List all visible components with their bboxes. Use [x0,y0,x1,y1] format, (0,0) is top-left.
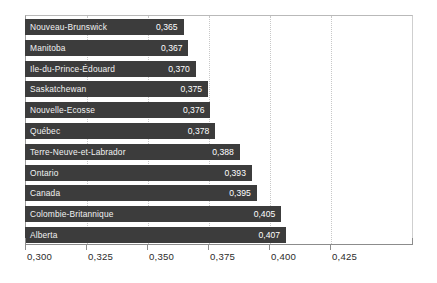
bar-category-label: Alberta [30,227,58,243]
bar-row: Nouvelle-Ecosse0,376 [25,102,210,118]
bar-row: Ontario0,393 [25,165,252,181]
bar-category-label: Ile-du-Prince-Édouard [30,61,115,77]
axis-tick [208,244,209,250]
bar-row: Alberta0,407 [25,227,286,243]
bar-row: Colombie-Britannique0,405 [25,206,281,222]
bar-value-label: 0,388 [212,144,234,160]
bar-category-label: Manitoba [30,40,66,56]
bar-row: Manitoba0,367 [25,40,188,56]
bar-value-label: 0,405 [254,206,276,222]
axis-tick-label: 0,325 [88,251,113,262]
axis-tick-label: 0,400 [271,251,296,262]
bar-row: Terre-Neuve-et-Labrador0,388 [25,144,240,160]
bar-value-label: 0,365 [156,19,178,35]
bar-value-label: 0,393 [224,165,246,181]
axis-tick-label: 0,375 [210,251,235,262]
x-axis-line [25,244,413,245]
bars-layer: Nouveau-Brunswick0,365Manitoba0,367Ile-d… [25,15,413,244]
bar-value-label: 0,375 [181,81,203,97]
axis-tick [330,244,331,250]
bar-value-label: 0,370 [168,61,190,77]
bar-row: Ile-du-Prince-Édouard0,370 [25,61,196,77]
bar-category-label: Saskatchewan [30,81,86,97]
axis-tick [86,244,87,250]
bar-value-label: 0,367 [161,40,183,56]
bar-row: Nouveau-Brunswick0,365 [25,19,184,35]
bar-row: Saskatchewan0,375 [25,81,208,97]
bar-value-label: 0,376 [183,102,205,118]
horizontal-bar-chart: Nouveau-Brunswick0,365Manitoba0,367Ile-d… [0,0,437,283]
bar-category-label: Nouveau-Brunswick [30,19,107,35]
bar-value-label: 0,407 [259,227,281,243]
axis-tick [269,244,270,250]
bar-category-label: Canada [30,185,60,201]
x-axis-right-cap [412,238,413,245]
bar-value-label: 0,378 [188,123,210,139]
bar-category-label: Ontario [30,165,59,181]
axis-tick [147,244,148,250]
bar [25,165,252,181]
axis-tick-label: 0,425 [332,251,357,262]
bar-row: Québec0,378 [25,123,215,139]
bar-category-label: Nouvelle-Ecosse [30,102,95,118]
axis-tick-label: 0,350 [149,251,174,262]
bar-row: Canada0,395 [25,185,257,201]
bar [25,227,286,243]
bar-value-label: 0,395 [229,185,251,201]
bar-category-label: Terre-Neuve-et-Labrador [30,144,126,160]
axis-tick-label: 0,300 [27,251,52,262]
axis-tick [25,244,26,250]
bar-category-label: Québec [30,123,60,139]
bar-category-label: Colombie-Britannique [30,206,114,222]
